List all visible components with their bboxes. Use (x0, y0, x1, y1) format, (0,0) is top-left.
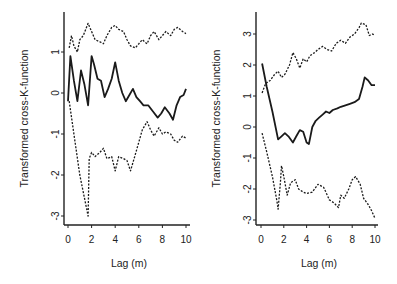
y-axis-label: Transformed cross-K-function (210, 49, 222, 187)
x-tick-label: 8 (349, 234, 355, 245)
envelope-line (69, 23, 186, 52)
x-tick-label: 4 (112, 234, 118, 245)
y-tick-label: 1 (50, 49, 61, 55)
y-tick-label: -3 (242, 215, 253, 224)
y-tick-label: -1 (242, 153, 253, 162)
x-tick-label: 2 (281, 234, 287, 245)
x-tick-label: 6 (136, 234, 142, 245)
y-tick-label: -2 (242, 184, 253, 193)
y-tick-label: 0 (50, 90, 61, 96)
envelope-line (69, 101, 186, 216)
x-tick-label: 10 (180, 234, 192, 245)
left-panel: -3-2-1010246810Lag (m)Transformed cross-… (18, 12, 192, 269)
x-tick-label: 0 (65, 234, 71, 245)
envelope-line (262, 133, 375, 218)
y-tick-label: -3 (50, 211, 61, 220)
figure: -3-2-1010246810Lag (m)Transformed cross-… (0, 0, 397, 284)
y-tick-label: 0 (242, 124, 253, 130)
x-tick-label: 10 (369, 234, 381, 245)
y-tick-label: 1 (242, 93, 253, 99)
right-panel: -3-2-101230246810Lag (m)Transformed cros… (210, 12, 381, 269)
x-tick-label: 4 (304, 234, 310, 245)
y-tick-label: -1 (50, 129, 61, 138)
x-tick-label: 6 (327, 234, 333, 245)
y-tick-label: 3 (242, 31, 253, 37)
y-axis-label: Transformed cross-K-function (18, 49, 30, 187)
observed-line (68, 56, 186, 120)
x-tick-label: 0 (258, 234, 264, 245)
x-axis-label: Lag (m) (301, 257, 337, 269)
x-tick-label: 8 (160, 234, 166, 245)
observed-line (262, 64, 375, 145)
x-axis-label: Lag (m) (111, 257, 147, 269)
x-tick-label: 2 (89, 234, 95, 245)
y-tick-label: 2 (242, 62, 253, 68)
envelope-line (262, 23, 375, 93)
y-tick-label: -2 (50, 170, 61, 179)
